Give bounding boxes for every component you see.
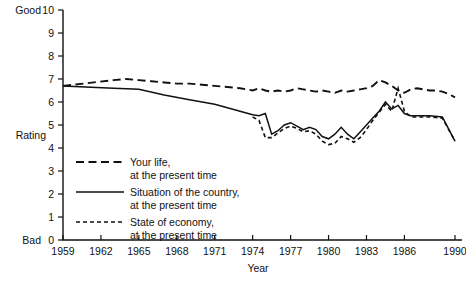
- y-axis-ticks: [58, 10, 63, 240]
- legend-label-line1: State of economy,: [130, 216, 214, 228]
- y-tick-label: 5: [48, 119, 54, 131]
- chart-legend: Your life,at the present timeSituation o…: [76, 156, 240, 241]
- line-chart: 012345678910 195919621965196819711974197…: [0, 0, 466, 283]
- x-axis-tick-labels: 1959196219651968197119741977198019831986…: [51, 245, 466, 257]
- y-axis-top-label: Good: [15, 4, 41, 16]
- x-tick-label: 1974: [241, 245, 265, 257]
- x-tick-label: 1990: [443, 245, 466, 257]
- x-tick-label: 1983: [355, 245, 379, 257]
- y-tick-label: 10: [42, 4, 54, 16]
- y-tick-label: 4: [48, 142, 54, 154]
- x-tick-label: 1965: [127, 245, 151, 257]
- chart-container: 012345678910 195919621965196819711974197…: [0, 0, 466, 283]
- y-axis-bottom-label: Bad: [22, 234, 41, 246]
- y-tick-label: 8: [48, 50, 54, 62]
- y-axis-title: Rating: [16, 129, 47, 141]
- x-tick-label: 1959: [51, 245, 75, 257]
- x-axis-title: Year: [247, 262, 269, 274]
- y-tick-label: 7: [48, 73, 54, 85]
- y-tick-label: 9: [48, 27, 54, 39]
- legend-label-line2: at the present time: [130, 229, 217, 241]
- x-tick-label: 1977: [279, 245, 303, 257]
- x-tick-label: 1962: [89, 245, 113, 257]
- legend-label-line1: Situation of the country,: [130, 186, 240, 198]
- chart-series-group: [63, 79, 455, 145]
- legend-label-line2: at the present time: [130, 199, 217, 211]
- y-tick-label: 6: [48, 96, 54, 108]
- x-tick-label: 1968: [165, 245, 189, 257]
- y-tick-label: 0: [48, 234, 54, 246]
- y-axis-tick-labels: 012345678910: [42, 4, 54, 246]
- y-tick-label: 1: [48, 211, 54, 223]
- y-tick-label: 2: [48, 188, 54, 200]
- x-tick-label: 1986: [393, 245, 417, 257]
- x-tick-label: 1971: [203, 245, 227, 257]
- legend-label-line1: Your life,: [130, 156, 170, 168]
- y-tick-label: 3: [48, 165, 54, 177]
- x-axis-ticks: [63, 235, 455, 240]
- legend-label-line2: at the present time: [130, 169, 217, 181]
- x-tick-label: 1980: [317, 245, 341, 257]
- chart-axes: [63, 10, 462, 240]
